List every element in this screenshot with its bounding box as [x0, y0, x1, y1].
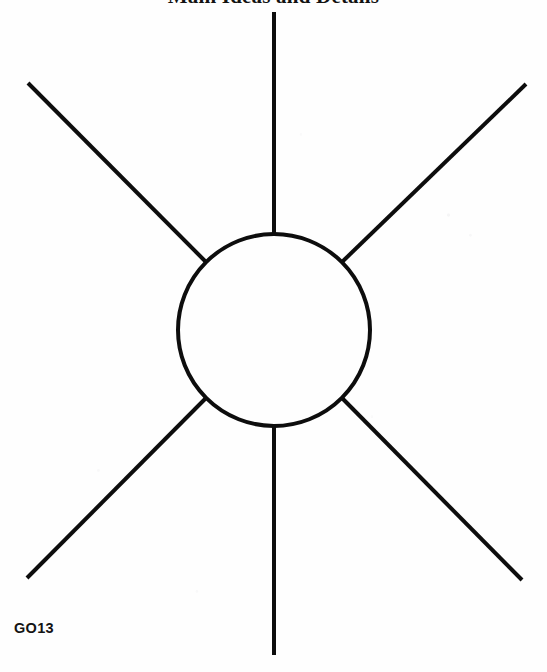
graphic-organizer-diagram — [0, 0, 547, 672]
rays-group — [27, 12, 526, 655]
ray-lower-left[interactable] — [27, 398, 206, 578]
ray-upper-left[interactable] — [28, 83, 206, 262]
organizer-code-label: GO13 — [14, 620, 54, 636]
ray-upper-right[interactable] — [342, 84, 526, 262]
center-circle[interactable] — [178, 234, 370, 426]
worksheet-page: Main Ideas and Details GO13 — [0, 0, 547, 672]
ray-lower-right[interactable] — [342, 398, 522, 580]
